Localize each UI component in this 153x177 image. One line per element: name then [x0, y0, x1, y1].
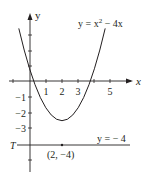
x-axis-label: x: [135, 75, 141, 87]
y-axis-label: y: [35, 9, 41, 21]
tangent-line-equation-label: y = − 4: [97, 133, 126, 144]
x-axis-arrow-icon: [126, 79, 133, 84]
x-axis: [9, 79, 133, 84]
x-tick-label-3: 3: [76, 86, 81, 97]
x-tick-label-2: 2: [60, 86, 65, 97]
parabola-label-main: y = x: [78, 18, 99, 29]
x-tick-label-5: 5: [108, 86, 113, 97]
vertex-label: (2, −4): [47, 149, 74, 161]
vertex-point: [61, 144, 63, 146]
y-tick-label-m2: −2: [15, 108, 26, 119]
parabola-equation-label: y = x2 − 4x: [78, 17, 123, 29]
parabola-label-tail: − 4x: [102, 18, 123, 29]
parabola-graph: x y 1 2 3 5 −1 −2 −3 T y = x2 − 4x y = −…: [0, 0, 153, 177]
y-tick-label-m3: −3: [15, 123, 26, 134]
x-tick-label-1: 1: [44, 86, 49, 97]
y-axis: [28, 13, 33, 172]
tangent-label: T: [10, 140, 17, 151]
y-tick-label-m1: −1: [15, 92, 26, 103]
y-axis-arrow-icon: [28, 13, 33, 20]
parabola-curve: [19, 28, 105, 120]
